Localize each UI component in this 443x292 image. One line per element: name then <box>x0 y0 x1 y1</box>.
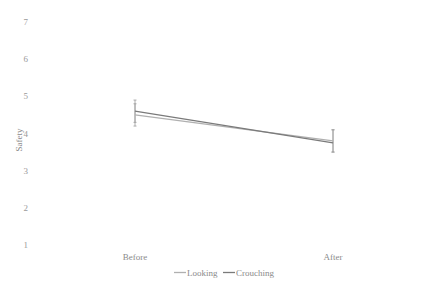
series-line-crouching <box>135 111 333 143</box>
legend-label-crouching: Crouching <box>236 268 274 278</box>
y-tick-label: 5 <box>24 91 29 101</box>
y-tick-label: 3 <box>24 166 29 176</box>
legend-label-looking: Looking <box>187 268 218 278</box>
x-tick-label: After <box>324 252 343 262</box>
error-bars <box>134 100 335 152</box>
y-tick-label: 1 <box>24 240 29 250</box>
line-chart: 1234567 Safety BeforeAfter LookingCrouch… <box>0 0 443 292</box>
series-line-looking <box>135 115 333 141</box>
y-tick-label: 4 <box>24 129 29 139</box>
legend: LookingCrouching <box>174 268 274 278</box>
y-tick-label: 7 <box>24 17 29 27</box>
y-axis-label: Safety <box>14 128 24 151</box>
y-tick-label: 2 <box>24 203 29 213</box>
y-axis-ticks: 1234567 <box>24 17 29 250</box>
x-axis-ticks: BeforeAfter <box>123 252 343 262</box>
series-lines <box>135 111 333 143</box>
y-tick-label: 6 <box>24 54 29 64</box>
x-tick-label: Before <box>123 252 148 262</box>
